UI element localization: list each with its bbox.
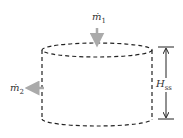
- height-symbol: H: [156, 78, 165, 89]
- height-label: Hss: [156, 79, 172, 92]
- outflow-subscript: 2: [19, 88, 23, 96]
- outflow-label: ṁ2: [10, 83, 24, 96]
- cylinder-top-ellipse: [42, 43, 152, 57]
- inflow-subscript: 1: [101, 17, 105, 25]
- height-subscript: ss: [165, 84, 172, 92]
- inflow-label: ṁ1: [92, 12, 106, 25]
- cylinder-control-volume: [42, 43, 152, 126]
- cylinder-bottom-arc: [42, 119, 152, 126]
